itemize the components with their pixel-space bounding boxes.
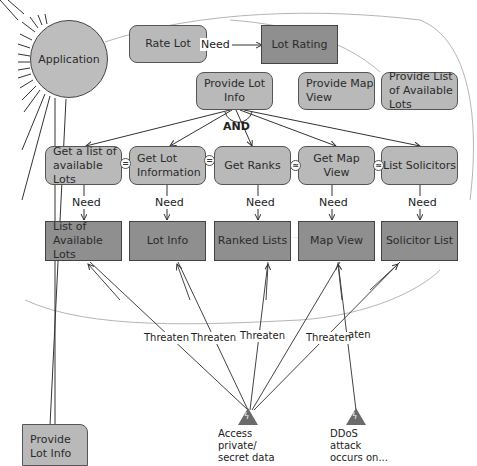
- threat-access-private-data[interactable]: ϟ: [238, 408, 258, 425]
- need-label: Need: [407, 196, 438, 209]
- need-label: Need: [318, 196, 349, 209]
- approx-connector: ≈: [290, 160, 301, 171]
- resource-map-view[interactable]: Map View: [298, 221, 375, 261]
- task-label: List Solicitors: [383, 159, 456, 173]
- goal-label: Provide List of Available Lots: [389, 70, 457, 112]
- resource-list-available-lots[interactable]: List of Available Lots: [45, 221, 122, 261]
- actor-application[interactable]: Application: [30, 20, 108, 98]
- task-label: Get a list of available Lots: [53, 145, 121, 187]
- need-label: Need: [154, 196, 185, 209]
- resource-ranked-lists[interactable]: Ranked Lists: [214, 221, 291, 261]
- resource-solicitor-list[interactable]: Solicitor List: [381, 221, 458, 261]
- threaten-label: Threaten: [306, 332, 351, 344]
- lightning-icon: ϟ: [352, 412, 357, 421]
- goal-provide-lot-info[interactable]: Provide Lot Info: [196, 72, 273, 110]
- goal-label: Provide Map View: [306, 77, 374, 105]
- threaten-label: Threaten: [240, 330, 285, 342]
- resource-label: Solicitor List: [386, 234, 453, 248]
- approx-connector: ≈: [373, 160, 384, 171]
- actor-label: Application: [38, 53, 99, 66]
- threaten-label: Threaten: [191, 332, 236, 344]
- task-label: Get Lot Information: [137, 152, 205, 180]
- task-get-lot-information[interactable]: Get Lot Information: [129, 146, 206, 185]
- resource-label: Lot Rating: [272, 38, 328, 52]
- and-label: AND: [222, 120, 251, 133]
- resource-label: List of Available Lots: [53, 220, 121, 262]
- task-label: Rate Lot: [145, 37, 191, 51]
- resource-lot-info[interactable]: Lot Info: [129, 221, 206, 261]
- lightning-icon: ϟ: [244, 412, 249, 421]
- threaten-label: aten: [348, 329, 371, 341]
- task-rate-lot[interactable]: Rate Lot: [129, 25, 207, 63]
- resource-label: Ranked Lists: [218, 234, 287, 248]
- task-list-solicitors[interactable]: List Solicitors: [381, 146, 458, 185]
- task-get-map-view[interactable]: Get Map View: [298, 146, 375, 185]
- threat-label: Access private/ secret data: [218, 428, 288, 464]
- threat-label: DDoS attack occurs on...: [330, 428, 390, 464]
- task-label: Get Map View: [299, 152, 374, 180]
- task-get-list-available-lots[interactable]: Get a list of available Lots: [45, 146, 122, 185]
- task-get-ranks[interactable]: Get Ranks: [214, 146, 291, 185]
- resource-label: Map View: [310, 234, 363, 248]
- goal-provide-map-view[interactable]: Provide Map View: [298, 72, 375, 110]
- need-label: Need: [71, 196, 102, 209]
- resource-label: Lot Info: [147, 234, 188, 248]
- goal-provide-list-available-lots[interactable]: Provide List of Available Lots: [381, 72, 458, 110]
- resource-lot-rating[interactable]: Lot Rating: [261, 25, 338, 64]
- equals-connector: =: [120, 158, 131, 169]
- threaten-label: Threaten: [144, 332, 189, 344]
- equals-connector: =: [204, 155, 215, 166]
- task-provide-lot-info-bottom[interactable]: Provide Lot Info: [22, 424, 88, 466]
- task-label: Provide Lot Info: [30, 433, 87, 461]
- need-label: Need: [200, 38, 231, 51]
- threat-ddos-attack[interactable]: ϟ: [346, 408, 366, 425]
- goal-label: Provide Lot Info: [197, 77, 272, 105]
- need-label: Need: [245, 196, 276, 209]
- task-label: Get Ranks: [224, 159, 280, 173]
